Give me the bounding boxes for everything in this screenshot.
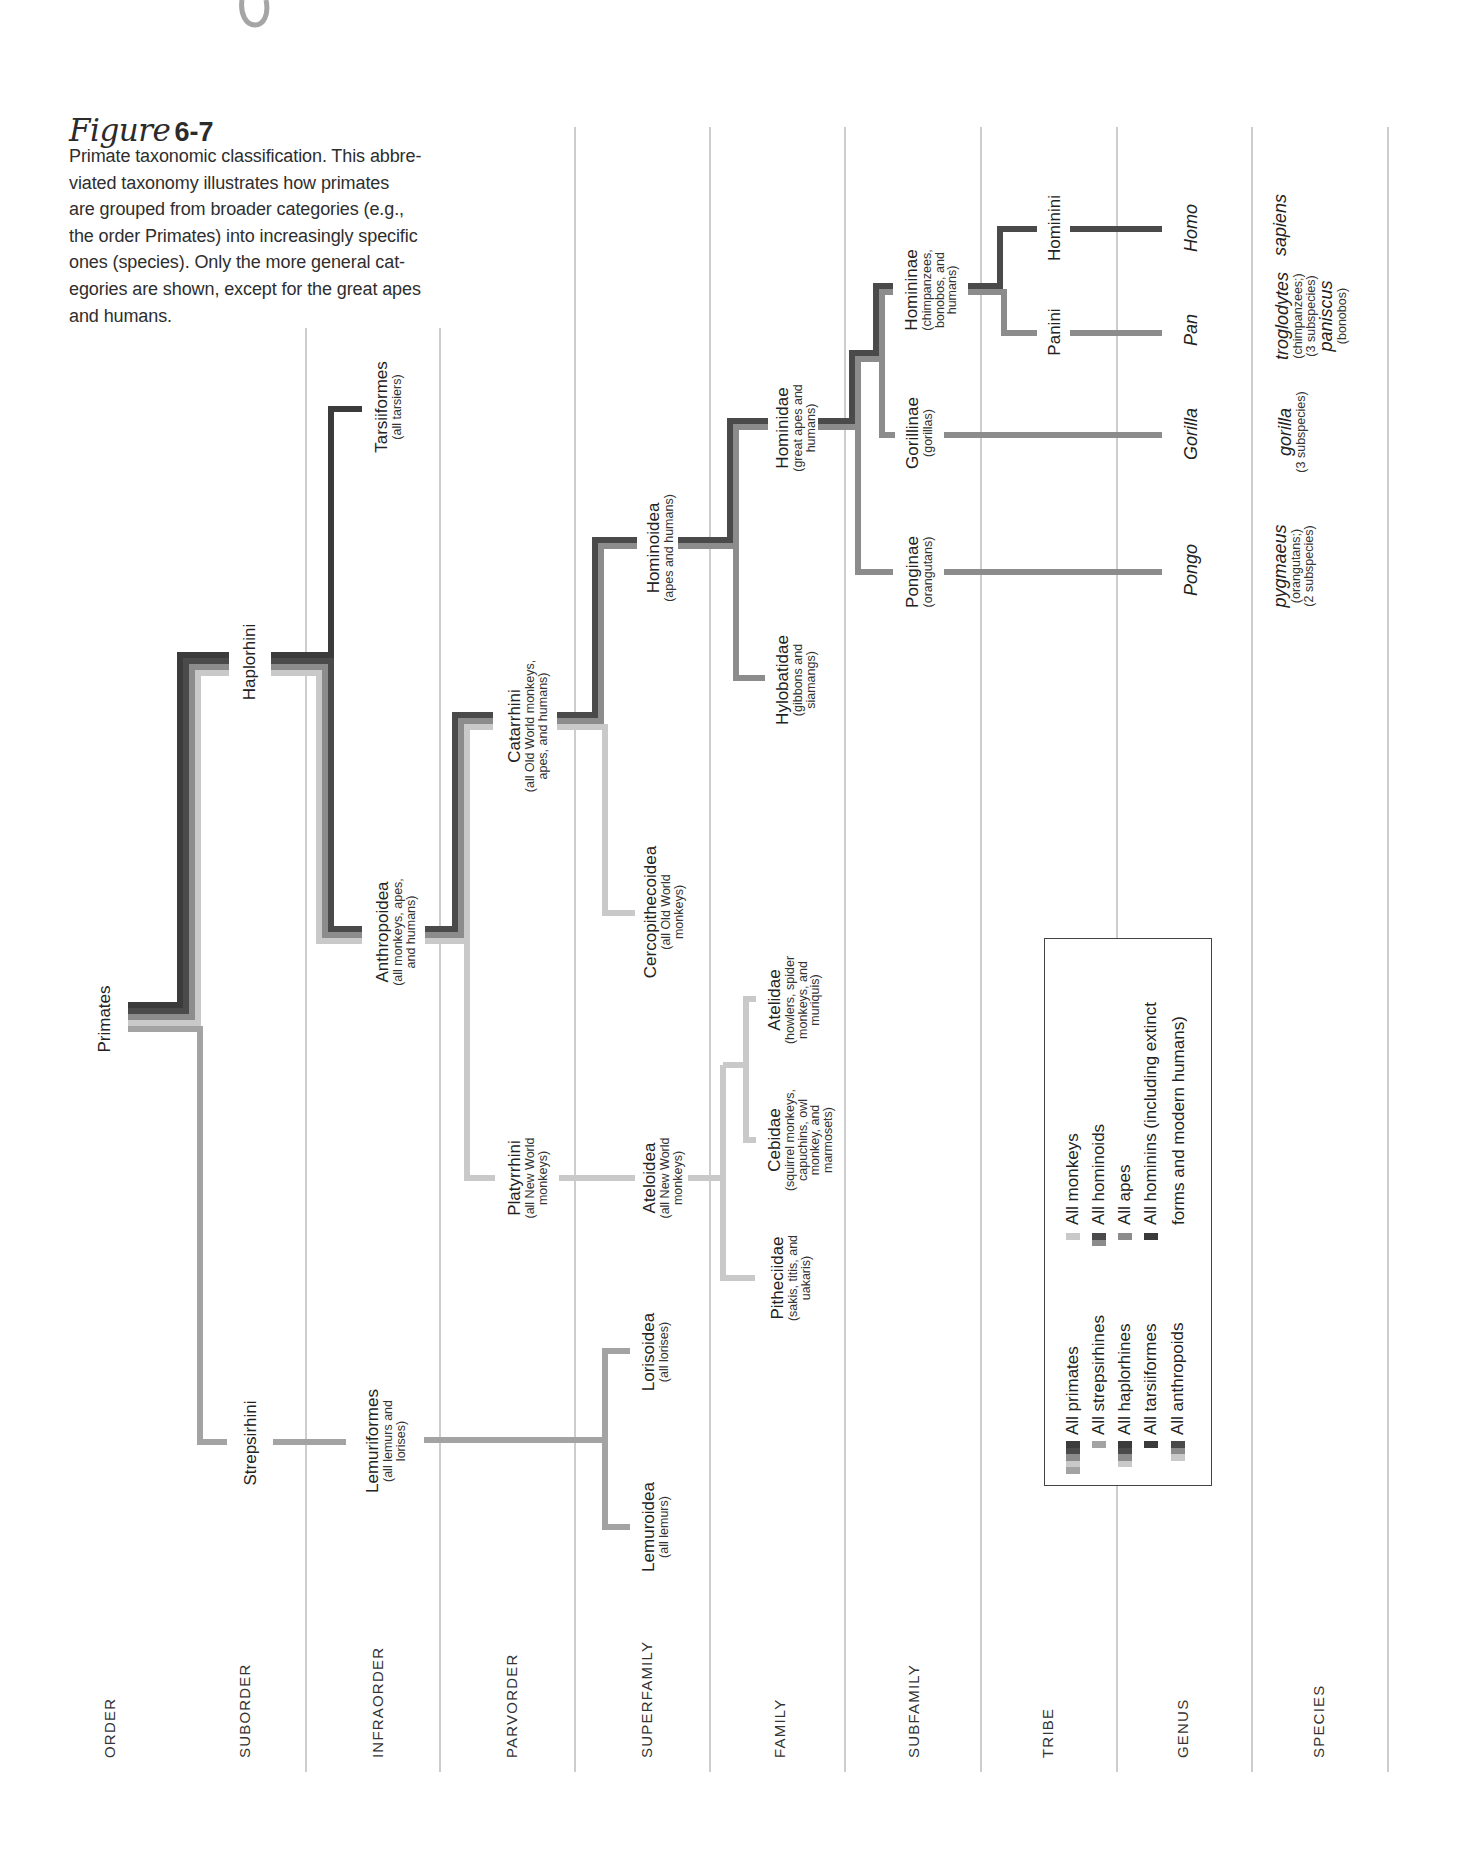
taxon-note: (all New Worldmonkeys) xyxy=(524,1137,549,1218)
taxon-platyrrhini: Platyrrhini (all New Worldmonkeys) xyxy=(506,1137,549,1218)
species-paniscus: paniscus xyxy=(1317,272,1336,360)
taxon-hylobatidae: Hylobatidae (gibbons andsiamangs) xyxy=(774,635,817,725)
taxon-note: (chimpanzees,bonobos, andhumans) xyxy=(921,249,959,330)
tree-branch-monkey xyxy=(467,941,495,1178)
species-gorilla: gorilla (3 subspecies) xyxy=(1276,391,1308,472)
tree-branch-monkey xyxy=(557,727,635,913)
taxon-name: Haplorhini xyxy=(241,624,259,701)
tree-branch-monkey xyxy=(723,1065,755,1278)
rank-family: FAMILY xyxy=(772,1458,788,1758)
tree-branch-tarsiiform xyxy=(128,655,229,1005)
tree-branch-monkey xyxy=(271,673,362,941)
rank-suborder: SUBORDER xyxy=(237,1458,253,1758)
tree-branch-tarsiiform xyxy=(271,409,362,655)
taxon-name: Anthropoidea xyxy=(374,878,392,986)
taxon-name: Hominidae xyxy=(774,384,792,472)
species-name: gorilla xyxy=(1276,391,1295,472)
taxon-note: (all Old World monkeys,apes, and humans) xyxy=(524,660,549,792)
taxon-name: Hylobatidae xyxy=(774,635,792,725)
taxon-note: (all lemurs) xyxy=(658,1482,671,1572)
taxon-name: Ateloidea xyxy=(641,1137,659,1218)
taxon-tarsiiformes: Tarsiiformes (all tarsiers) xyxy=(373,361,404,453)
taxon-primates: Primates xyxy=(96,985,114,1052)
legend-label-anthropoids: All anthropoids xyxy=(1168,1015,1188,1435)
caption-line: the order Primates) into increasingly sp… xyxy=(69,223,479,250)
legend-label-primates: All primates xyxy=(1063,1015,1083,1435)
rank-tribe: TRIBE xyxy=(1040,1458,1056,1758)
genus-name: Pongo xyxy=(1182,544,1201,596)
genus-gorilla: Gorilla xyxy=(1182,408,1201,460)
legend-label-haplorhines: All haplorhines xyxy=(1115,1015,1135,1435)
genus-homo: Homo xyxy=(1182,204,1201,252)
taxon-name: Tarsiiformes xyxy=(373,361,391,453)
taxon-name: Gorillinae xyxy=(904,397,922,469)
species-name: sapiens xyxy=(1271,194,1290,256)
taxon-name: Cercopithecoidea xyxy=(642,846,660,978)
tree-branch-ape xyxy=(736,546,765,678)
taxon-catarrhini: Catarrhini (all Old World monkeys,apes, … xyxy=(506,660,549,792)
rank-superfamily: SUPERFAMILY xyxy=(639,1458,655,1758)
taxon-homininae: Homininae (chimpanzees,bonobos, andhuman… xyxy=(903,249,959,330)
taxon-atelidae: Atelidae (howlers, spidermonkeys, andmur… xyxy=(766,956,822,1044)
legend-swatch-tarsiiformes xyxy=(1144,1441,1158,1448)
taxon-name: Hominini xyxy=(1046,195,1064,261)
taxon-haplorhini: Haplorhini xyxy=(241,624,259,701)
taxon-note: (all monkeys, apes,and humans) xyxy=(392,878,417,986)
taxon-note: (all lorises) xyxy=(658,1313,671,1391)
legend-label-tarsiiformes: All tarsiiformes xyxy=(1141,1015,1161,1435)
taxon-name: Pitheciidae xyxy=(769,1235,787,1321)
taxon-hominini: Hominini xyxy=(1046,195,1064,261)
tree-branch-ape xyxy=(858,427,893,572)
tree-branch-strepsirhine xyxy=(128,1029,227,1442)
taxon-ateloidea: Ateloidea (all New Worldmonkeys) xyxy=(641,1137,684,1218)
taxon-note: (all Old Worldmonkeys) xyxy=(660,846,685,978)
rank-subfamily: SUBFAMILY xyxy=(906,1458,922,1758)
taxon-note: (gibbons andsiamangs) xyxy=(792,635,817,725)
tree-branch-hominin xyxy=(557,540,637,715)
legend-swatch-strepsirhines xyxy=(1092,1441,1106,1448)
page-fragment-glyph xyxy=(242,0,267,25)
taxon-name: Catarrhini xyxy=(506,660,524,792)
caption-line: viated taxonomy illustrates how primates xyxy=(69,170,479,197)
legend-swatch-primates xyxy=(1066,1441,1080,1474)
species-note: (3 subspecies) xyxy=(1295,391,1308,472)
figure-caption: Primate taxonomic classification. This a… xyxy=(69,143,479,329)
taxon-note: (gorillas) xyxy=(922,397,935,469)
taxon-note: (great apes andhumans) xyxy=(792,384,817,472)
caption-line: ones (species). Only the more general ca… xyxy=(69,249,479,276)
species-pygmaeus: pygmaeus (orangutans;)(2 subspecies) xyxy=(1271,524,1315,607)
taxon-anthropoidea: Anthropoidea (all monkeys, apes,and huma… xyxy=(374,878,417,986)
taxon-gorillinae: Gorillinae (gorillas) xyxy=(904,397,935,469)
tree-branch-strepsirhine xyxy=(605,1351,630,1527)
rank-order: ORDER xyxy=(102,1458,118,1758)
caption-line: are grouped from broader categories (e.g… xyxy=(69,196,479,223)
taxon-note: (apes and humans) xyxy=(663,494,676,602)
genus-name: Gorilla xyxy=(1182,408,1201,460)
genus-name: Pan xyxy=(1182,314,1201,346)
tree-branch-monkey xyxy=(746,999,756,1140)
caption-line: egories are shown, except for the great … xyxy=(69,276,479,303)
taxon-name: Platyrrhini xyxy=(506,1137,524,1218)
taxon-note: (orangutans) xyxy=(922,536,935,608)
species-pan-group: troglodytes (chimpanzees;)(3 subspecies)… xyxy=(1273,272,1349,360)
taxon-lorisoidea: Lorisoidea (all lorises) xyxy=(640,1313,671,1391)
rank-species: SPECIES xyxy=(1311,1458,1327,1758)
taxon-name: Atelidae xyxy=(766,956,784,1044)
tree-branch-hominin xyxy=(968,229,1037,286)
tree-branch-ape xyxy=(882,359,895,435)
genus-pongo: Pongo xyxy=(1182,544,1201,596)
rank-parvorder: PARVORDER xyxy=(504,1458,520,1758)
taxon-name: Ponginae xyxy=(904,536,922,608)
legend-swatch-haplorhines xyxy=(1118,1441,1132,1467)
taxon-cebidae: Cebidae (squirrel monkeys,capuchins, owl… xyxy=(766,1089,834,1191)
genus-name: Homo xyxy=(1182,204,1201,252)
taxon-note: (sakis, titis, anduakaris) xyxy=(787,1235,812,1321)
caption-line: and humans. xyxy=(69,303,479,330)
caption-line: Primate taxonomic classification. This a… xyxy=(69,143,479,170)
taxon-panini: Panini xyxy=(1046,308,1064,355)
taxon-name: Homininae xyxy=(903,249,921,330)
taxon-note: (squirrel monkeys,capuchins, owlmonkey, … xyxy=(784,1089,834,1191)
taxon-hominoidea: Hominoidea (apes and humans) xyxy=(645,494,676,602)
species-troglodytes: troglodytes xyxy=(1273,272,1292,360)
taxon-hominidae: Hominidae (great apes andhumans) xyxy=(774,384,817,472)
